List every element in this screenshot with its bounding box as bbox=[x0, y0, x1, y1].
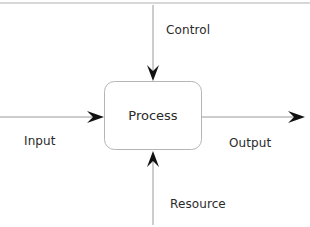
input-arrow bbox=[0, 111, 104, 123]
control-label: Control bbox=[166, 23, 210, 37]
resource-label: Resource bbox=[170, 197, 226, 211]
output-label: Output bbox=[229, 136, 271, 150]
input-label: Input bbox=[24, 134, 56, 148]
output-arrow bbox=[202, 111, 305, 123]
control-arrow bbox=[147, 5, 159, 81]
resource-arrow bbox=[147, 151, 159, 225]
process-label: Process bbox=[104, 81, 202, 150]
